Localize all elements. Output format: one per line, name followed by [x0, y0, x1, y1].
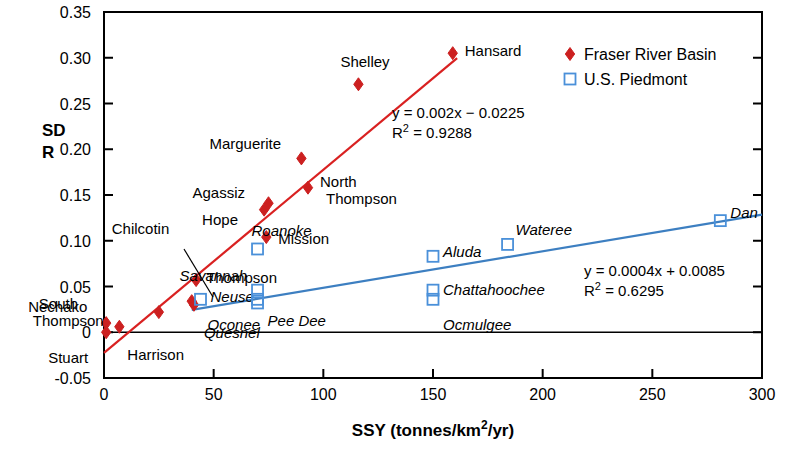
x-tick-label: 100	[310, 386, 337, 403]
point-label-shelley: Shelley	[340, 53, 390, 70]
y-tick-label: 0.25	[60, 96, 91, 113]
point-label-chattahoochee: Chattahoochee	[443, 281, 545, 298]
point-label-chilcotin: Chilcotin	[112, 220, 170, 237]
scatter-plot: -0.0500.050.100.150.200.250.300.35050100…	[0, 0, 789, 455]
data-point-marker[interactable]	[303, 181, 312, 194]
x-tick-label: 0	[100, 386, 109, 403]
data-point-marker[interactable]	[154, 306, 163, 319]
data-point-marker[interactable]	[252, 243, 263, 254]
piedmont-r2: R2 = 0.6295	[584, 280, 664, 299]
legend-label-u-s-piedmont: U.S. Piedmont	[584, 71, 688, 88]
piedmont-equation: y = 0.0004x + 0.0085	[584, 262, 725, 279]
point-label-wateree: Wateree	[516, 221, 572, 238]
point-label-aluda: Aluda	[442, 243, 481, 260]
y-tick-label: 0.20	[60, 141, 91, 158]
point-label-roanoke: Roanoke	[252, 222, 312, 239]
y-tick-label: 0.30	[60, 50, 91, 67]
fraser-equation: y = 0.002x − 0.0225	[392, 104, 525, 121]
data-point-marker[interactable]	[354, 78, 363, 91]
point-label-savannah: Savannah	[180, 267, 248, 284]
data-point-marker[interactable]	[428, 251, 439, 262]
y-tick-label: 0.35	[60, 4, 91, 21]
fraser-r2: R2 = 0.9288	[392, 122, 472, 141]
point-label-neuse: Neuse	[211, 288, 254, 305]
y-tick-label: -0.05	[55, 370, 92, 387]
y-axis-title-line2: R	[42, 143, 54, 162]
x-axis-title: SSY (tonnes/km2/yr)	[352, 418, 514, 440]
legend-marker-us-piedmont	[565, 74, 576, 85]
data-point-marker[interactable]	[297, 152, 306, 165]
y-tick-label: 0.05	[60, 279, 91, 296]
legend-marker-fraser-river-basin	[565, 48, 574, 61]
x-tick-label: 150	[420, 386, 447, 403]
x-tick-label: 250	[639, 386, 666, 403]
chart-figure: -0.0500.050.100.150.200.250.300.35050100…	[0, 0, 789, 455]
legend-label-fraser-river-basin: Fraser River Basin	[584, 46, 716, 63]
point-label-agassiz: Agassiz	[193, 184, 246, 201]
data-point-marker[interactable]	[115, 320, 124, 333]
point-label-stuart: Stuart	[48, 349, 89, 366]
y-tick-label: 0.15	[60, 187, 91, 204]
point-label-oconee: Oconee	[208, 316, 261, 333]
point-label-hansard: Hansard	[465, 42, 522, 59]
x-tick-label: 200	[529, 386, 556, 403]
point-label-harrison: Harrison	[127, 346, 184, 363]
x-tick-label: 300	[749, 386, 776, 403]
y-tick-label: 0.10	[60, 233, 91, 250]
point-label-pee-dee: Pee Dee	[268, 312, 326, 329]
x-tick-label: 50	[205, 386, 223, 403]
y-axis-title-line1: SD	[42, 121, 66, 140]
point-label-south-thompson: SouthThompson	[33, 295, 104, 329]
point-label-ocmulgee: Ocmulgee	[443, 316, 511, 333]
point-label-dan: Dan	[730, 204, 758, 221]
point-label-hope: Hope	[202, 211, 238, 228]
point-label-north-thompson: NorthThompson	[320, 173, 397, 207]
data-point-marker[interactable]	[502, 239, 513, 250]
point-label-marguerite: Marguerite	[209, 135, 281, 152]
